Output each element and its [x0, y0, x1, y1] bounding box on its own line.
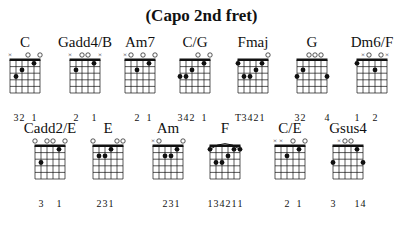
open-string-icon [303, 139, 307, 143]
finger-numbers: 231 [78, 198, 138, 210]
finger-dot-icon [220, 160, 225, 165]
finger-numbers: 31 [20, 198, 80, 210]
open-string-icon [196, 53, 200, 57]
page-title: (Capo 2nd fret) [0, 6, 403, 26]
fretboard-grid: × [138, 138, 198, 198]
muted-string-icon: × [361, 52, 365, 59]
fretboard-grid: × [0, 52, 55, 112]
muted-string-icon: × [68, 52, 72, 59]
fretboard-grid: × [318, 138, 378, 198]
open-string-icon [153, 53, 157, 57]
fretboard-grid: × [110, 52, 170, 112]
open-string-icon [343, 139, 347, 143]
open-string-icon [80, 53, 84, 57]
finger-dot-icon [92, 61, 97, 66]
open-string-icon [208, 53, 212, 57]
fretboard-grid: ×× [260, 138, 320, 198]
chord-name: Gsus4 [318, 120, 378, 137]
muted-string-icon: × [98, 52, 102, 59]
finger-dot-icon [184, 74, 189, 79]
finger-number: 2 [283, 198, 291, 209]
finger-dot-icon [190, 68, 195, 73]
open-string-icon [157, 139, 161, 143]
open-string-icon [313, 53, 317, 57]
finger-number: 1 [173, 198, 181, 209]
finger-number: 1 [236, 198, 244, 209]
muted-string-icon: × [337, 138, 341, 145]
finger-dot-icon [361, 160, 366, 165]
finger-dot-icon [32, 61, 37, 66]
finger-number: 1 [295, 198, 303, 209]
finger-number: 3 [329, 198, 337, 209]
finger-dot-icon [74, 68, 79, 73]
muted-string-icon: × [385, 52, 389, 59]
finger-number: 1 [107, 198, 115, 209]
open-string-icon [266, 53, 270, 57]
fretboard-grid [78, 138, 138, 198]
finger-number: 3 [37, 198, 45, 209]
finger-dot-icon [238, 147, 243, 152]
finger-number: 1 [55, 198, 63, 209]
open-string-icon [129, 53, 133, 57]
chord-name: C/G [165, 34, 225, 51]
finger-numbers: 231 [138, 198, 198, 210]
chord-name: E [78, 120, 138, 137]
finger-dot-icon [355, 147, 360, 152]
finger-dot-icon [169, 154, 174, 159]
finger-dot-icon [14, 74, 19, 79]
chord-name: Fmaj [223, 34, 283, 51]
chord-name: Am7 [110, 34, 170, 51]
chord-name: Gadd4/B [55, 34, 115, 51]
finger-dot-icon [295, 74, 300, 79]
finger-dot-icon [214, 160, 219, 165]
open-string-icon [379, 53, 383, 57]
muted-string-icon: × [151, 138, 155, 145]
finger-dot-icon [109, 147, 114, 152]
finger-dot-icon [20, 68, 25, 73]
fretboard-grid: ×× [342, 52, 402, 112]
fretboard-grid: ×× [55, 52, 115, 112]
finger-dot-icon [57, 147, 62, 152]
fretboard-grid [20, 138, 80, 198]
open-string-icon [349, 139, 353, 143]
open-string-icon [91, 139, 95, 143]
open-string-icon [51, 139, 55, 143]
chord-name: F [195, 120, 255, 137]
open-string-icon [141, 53, 145, 57]
muted-string-icon: × [279, 138, 283, 145]
open-string-icon [181, 139, 185, 143]
open-string-icon [307, 53, 311, 57]
open-string-icon [367, 53, 371, 57]
finger-dot-icon [248, 74, 253, 79]
finger-numbers: 314 [318, 198, 378, 210]
fretboard-grid [195, 138, 255, 198]
finger-dot-icon [242, 74, 247, 79]
open-string-icon [33, 139, 37, 143]
finger-dot-icon [147, 61, 152, 66]
finger-dot-icon [373, 68, 378, 73]
chord-name: G [282, 34, 342, 51]
finger-dot-icon [232, 147, 237, 152]
finger-dot-icon [226, 154, 231, 159]
open-string-icon [291, 139, 295, 143]
finger-dot-icon [325, 74, 330, 79]
chord-name: C/E [260, 120, 320, 137]
open-string-icon [319, 53, 323, 57]
fretboard-grid [223, 52, 283, 112]
chord-name: Dm6/F [342, 34, 402, 51]
finger-dot-icon [208, 147, 213, 152]
chord-name: C [0, 34, 55, 51]
finger-dot-icon [297, 147, 302, 152]
fretboard-grid [282, 52, 342, 112]
finger-dot-icon [301, 68, 306, 73]
chord-name: Am [138, 120, 198, 137]
finger-dot-icon [103, 154, 108, 159]
open-string-icon [45, 139, 49, 143]
chord-name: Cadd2/E [20, 120, 80, 137]
open-string-icon [63, 139, 67, 143]
muted-string-icon: × [8, 52, 12, 59]
open-string-icon [26, 53, 30, 57]
muted-string-icon: × [273, 138, 277, 145]
finger-numbers: 134211 [195, 198, 255, 210]
open-string-icon [115, 139, 119, 143]
